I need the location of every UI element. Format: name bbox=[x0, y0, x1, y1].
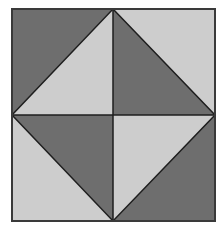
quilt-diagram bbox=[0, 0, 224, 231]
